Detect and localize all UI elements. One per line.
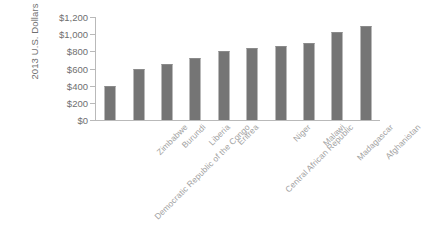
plot-area: [96, 17, 380, 120]
bar: [303, 43, 314, 120]
bar: [275, 46, 286, 120]
bar-slot: [266, 17, 294, 120]
bar-slot: [181, 17, 209, 120]
x-axis-category-label: Niger: [291, 122, 313, 144]
y-axis-tick-label: $0: [36, 115, 88, 126]
bar: [218, 51, 229, 120]
bar: [133, 69, 144, 120]
bar-slot: [323, 17, 351, 120]
x-axis-category-label: Eritrea: [235, 122, 260, 147]
bar-slot: [153, 17, 181, 120]
x-axis-line: [95, 120, 380, 121]
bar-slot: [295, 17, 323, 120]
bar: [332, 32, 343, 120]
bar: [247, 48, 258, 120]
y-axis-tick-label: $400: [36, 80, 88, 91]
y-axis-tick-label: $1,200: [36, 12, 88, 23]
y-axis-tick-label: $600: [36, 63, 88, 74]
bar-slot: [238, 17, 266, 120]
bar: [190, 58, 201, 120]
bar-slot: [124, 17, 152, 120]
y-axis-tick-label: $800: [36, 46, 88, 57]
bar: [105, 86, 116, 120]
y-axis-tick-label: $200: [36, 97, 88, 108]
bar-slot: [352, 17, 380, 120]
bar-slot: [96, 17, 124, 120]
y-axis-tick-labels: $1,200$1,000$800$600$400$200$0: [36, 11, 88, 124]
bar: [161, 64, 172, 120]
y-axis-tick-label: $1,000: [36, 29, 88, 40]
bar-slot: [210, 17, 238, 120]
x-axis-category-labels: Democratic Republic of the CongoZimbabwe…: [96, 122, 380, 248]
bar: [360, 26, 371, 120]
